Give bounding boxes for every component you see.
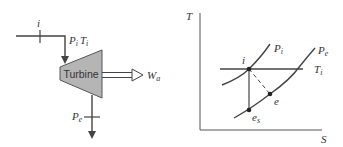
- point-e: [268, 92, 273, 97]
- point-i-label: i: [242, 54, 245, 66]
- ts-axes: [200, 13, 322, 130]
- isobar-pi-label: Pi: [273, 42, 283, 56]
- turbine-and-ts-diagram: i PiTi Turbine Wa Pe T S Ti: [0, 0, 343, 147]
- turbine-label: Turbine: [63, 68, 98, 80]
- actual-process-line: [249, 69, 270, 94]
- isobar-pe-label: Pe: [317, 44, 329, 58]
- inlet-properties-label: PiTi: [68, 34, 88, 48]
- exit-arrow-icon: [88, 131, 96, 139]
- inlet-arrow-icon: [61, 56, 69, 64]
- x-axis-label: S: [321, 133, 327, 145]
- isobar-pi-curve: [222, 44, 270, 85]
- isobar-pe-curve: [234, 48, 315, 118]
- turbine-schematic: i PiTi Turbine Wa Pe: [16, 17, 160, 139]
- y-axis-label: T: [186, 10, 193, 22]
- point-i: [247, 67, 252, 72]
- point-e-label: e: [274, 95, 279, 107]
- point-es: [247, 108, 252, 113]
- work-label: Wa: [147, 69, 160, 83]
- point-es-label: es: [252, 111, 260, 125]
- exit-pressure-label: Pe: [71, 110, 83, 124]
- work-output-arrow-icon: [102, 69, 143, 81]
- inlet-state-label: i: [37, 17, 40, 29]
- isotherm-label: Ti: [314, 63, 322, 77]
- ts-diagram: T S Ti Pi Pe i e es: [186, 10, 329, 145]
